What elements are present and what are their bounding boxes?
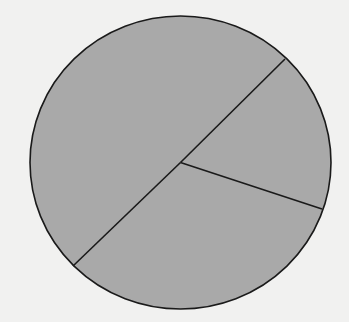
pie-chart xyxy=(0,0,349,322)
